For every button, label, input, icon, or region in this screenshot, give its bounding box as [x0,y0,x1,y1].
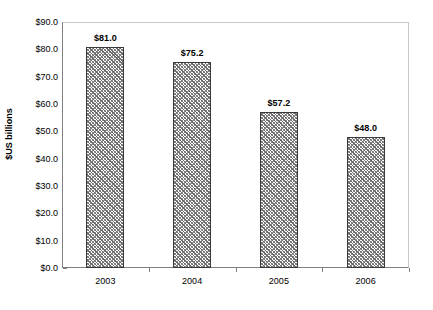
x-tick-label-2004: 2004 [182,276,202,286]
x-tick-label-2006: 2006 [356,276,376,286]
bar-2005 [260,112,298,268]
x-tick-label-2003: 2003 [95,276,115,286]
x-tick-label-2005: 2005 [269,276,289,286]
data-label-2005: $57.2 [268,98,291,108]
bars-layer: $81.02003$75.22004$57.22005$48.02006 [0,0,433,310]
data-label-2006: $48.0 [354,123,377,133]
bar-2004 [173,62,211,268]
data-label-2004: $75.2 [181,48,204,58]
bar-2006 [347,137,385,268]
bar-2003 [86,47,124,268]
data-label-2003: $81.0 [94,33,117,43]
bar-chart: $US billions $90.0$80.0$70.0$60.0$50.0$4… [0,0,433,310]
